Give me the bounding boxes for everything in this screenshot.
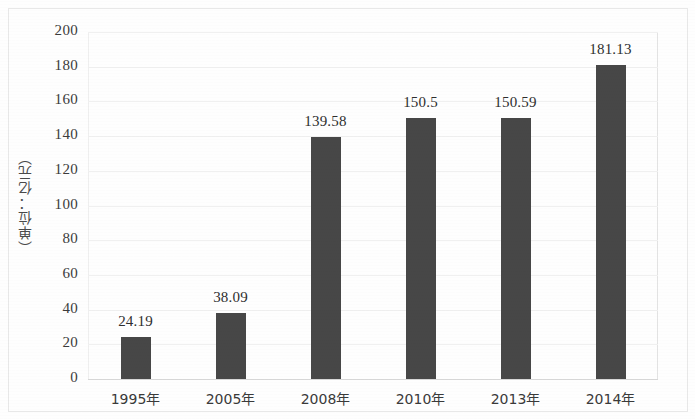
bar-value-label: 38.09	[186, 289, 276, 306]
gridline	[88, 379, 658, 380]
y-axis-tick-label: 0	[0, 369, 78, 386]
y-axis-tick-label: 140	[0, 126, 78, 143]
gridline	[88, 206, 658, 207]
bar[interactable]	[596, 65, 626, 379]
gridline	[88, 32, 658, 33]
y-axis-tick-label: 40	[0, 300, 78, 317]
x-axis-tick-label: 1995年	[91, 388, 181, 408]
chart-figure: （单位：亿元） 020406080100120140160180200 24.1…	[0, 0, 695, 419]
y-axis-tick-label: 100	[0, 196, 78, 213]
bar-value-label: 24.19	[91, 313, 181, 330]
bar-value-label: 139.58	[281, 113, 371, 130]
y-axis-tick-label: 20	[0, 334, 78, 351]
bar-value-label: 150.59	[471, 94, 561, 111]
gridline	[88, 344, 658, 345]
bar-value-label: 181.13	[566, 41, 656, 58]
gridline	[88, 101, 658, 102]
bar[interactable]	[501, 118, 531, 379]
y-axis-tick-label: 80	[0, 230, 78, 247]
y-axis-tick-label: 60	[0, 265, 78, 282]
x-axis-tick-label: 2010年	[376, 388, 466, 408]
gridline	[88, 310, 658, 311]
y-axis-tick-label: 120	[0, 161, 78, 178]
gridline	[88, 67, 658, 68]
bar[interactable]	[311, 137, 341, 379]
x-axis-tick-label: 2013年	[471, 388, 561, 408]
gridline	[88, 136, 658, 137]
bar-value-label: 150.5	[376, 94, 466, 111]
gridline	[88, 240, 658, 241]
x-axis-tick-label: 2008年	[281, 388, 371, 408]
y-axis-tick-label: 160	[0, 91, 78, 108]
bar[interactable]	[121, 337, 151, 379]
bar[interactable]	[216, 313, 246, 379]
y-axis-tick-label: 200	[0, 22, 78, 39]
y-axis-tick-label: 180	[0, 57, 78, 74]
bar[interactable]	[406, 118, 436, 379]
gridline	[88, 275, 658, 276]
gridline	[88, 171, 658, 172]
x-axis-tick-label: 2005年	[186, 388, 276, 408]
x-axis-tick-label: 2014年	[566, 388, 656, 408]
